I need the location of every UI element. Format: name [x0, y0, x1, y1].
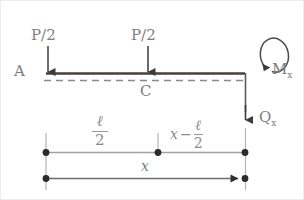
free-body-diagram: P/2 P/2 A C Mx Qx ℓ 2 x − ℓ 2 x: [0, 0, 304, 200]
dimension-node-right-lower: [242, 175, 249, 182]
dimension-label-half-span: ℓ 2: [92, 114, 108, 149]
dimension-node-right-upper: [242, 149, 249, 156]
shear-subscript: x: [271, 118, 276, 128]
half-span-denominator: 2: [92, 133, 108, 149]
remainder-numerator: ℓ: [194, 118, 203, 133]
load-label-midspan: P/2: [131, 28, 156, 43]
dimension-node-mid-upper: [155, 149, 162, 156]
dimension-node-left-lower: [43, 175, 50, 182]
moment-label: Mx: [272, 62, 292, 80]
dimension-label-total: x: [141, 159, 149, 173]
shear-label: Qx: [259, 110, 276, 128]
dimension-label-remainder: x − ℓ 2: [170, 118, 203, 150]
remainder-lead: x: [170, 126, 178, 142]
shear-symbol: Q: [259, 108, 271, 126]
half-span-numerator: ℓ: [92, 114, 108, 130]
dimension-node-left-upper: [43, 149, 50, 156]
remainder-fraction: ℓ 2: [194, 118, 203, 150]
moment-subscript: x: [287, 70, 292, 80]
support-point-label-a: A: [14, 64, 25, 79]
load-label-left: P/2: [31, 28, 56, 43]
moment-symbol: M: [272, 60, 287, 78]
remainder-denominator: 2: [194, 136, 203, 151]
midpoint-label-c: C: [140, 84, 151, 99]
remainder-operator: −: [180, 126, 192, 142]
